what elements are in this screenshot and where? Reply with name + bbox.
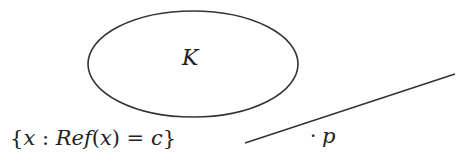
diagram-canvas: K {x : Ref(x) = c} · p bbox=[0, 0, 470, 164]
level-set-label: {x : Ref(x) = c} bbox=[10, 126, 176, 150]
point-dot: · bbox=[310, 124, 316, 148]
point-p-label: p bbox=[322, 124, 335, 148]
hyperplane-line bbox=[245, 74, 455, 143]
set-k-label: K bbox=[181, 45, 200, 70]
